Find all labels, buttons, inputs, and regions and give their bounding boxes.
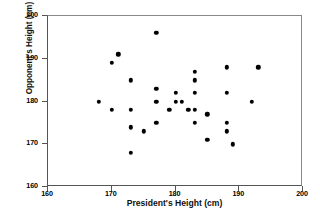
- y-axis-tick-label: 170: [0, 140, 38, 147]
- data-point: [154, 121, 158, 125]
- data-point: [224, 91, 228, 95]
- data-point: [173, 99, 177, 103]
- data-point: [224, 129, 228, 133]
- y-axis-tick: [42, 58, 47, 59]
- plot-area: [47, 15, 302, 186]
- data-points-layer: [48, 16, 301, 185]
- data-point: [192, 121, 196, 125]
- x-axis-tick-label: 170: [91, 190, 131, 197]
- x-axis-tick-label: 200: [282, 190, 320, 197]
- data-point: [186, 108, 190, 112]
- data-point: [129, 125, 133, 129]
- x-axis-tick-label: 180: [155, 190, 195, 197]
- data-point: [154, 31, 158, 35]
- y-axis-title: Opponent's Height (cm): [26, 0, 34, 128]
- data-point: [192, 78, 196, 82]
- data-point: [154, 86, 158, 90]
- data-point: [167, 108, 171, 112]
- x-axis-tick-label: 190: [218, 190, 258, 197]
- data-point: [180, 99, 184, 103]
- data-point: [192, 69, 196, 73]
- y-axis-tick: [42, 15, 47, 16]
- data-point: [205, 112, 209, 116]
- data-point: [256, 65, 260, 69]
- y-axis-tick: [42, 101, 47, 102]
- data-point: [129, 108, 133, 112]
- x-axis-tick-label: 160: [27, 190, 67, 197]
- data-point: [129, 151, 133, 155]
- data-point: [110, 108, 114, 112]
- y-axis-tick: [42, 143, 47, 144]
- data-point: [192, 91, 196, 95]
- x-axis-title: President's Height (cm): [47, 199, 302, 208]
- data-point: [129, 78, 133, 82]
- data-point: [141, 129, 145, 133]
- data-point: [97, 99, 101, 103]
- data-point: [154, 99, 158, 103]
- data-point: [224, 121, 228, 125]
- data-point: [250, 99, 254, 103]
- data-point: [231, 142, 235, 146]
- y-axis-tick-label: 160: [0, 182, 38, 189]
- data-point: [110, 61, 114, 65]
- data-point: [173, 91, 177, 95]
- scatter-plot-figure: 160170180190200160170180190200 President…: [0, 0, 320, 218]
- data-point: [224, 65, 228, 69]
- data-point: [116, 52, 120, 56]
- data-point: [192, 108, 196, 112]
- data-point: [205, 138, 209, 142]
